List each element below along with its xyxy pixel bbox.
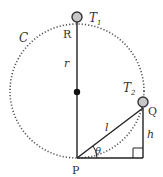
label-l: l (105, 121, 109, 134)
label-q: Q (148, 105, 157, 118)
label-c: C (19, 31, 28, 45)
label-h: h (147, 128, 154, 141)
pendulum-circle-diagram: T1 T2 C R r Q l h θ P (0, 0, 163, 177)
label-t1: T1 (89, 11, 101, 27)
label-p: P (72, 164, 80, 177)
label-t2: T2 (123, 81, 136, 97)
center-dot (74, 89, 80, 95)
label-radius: r (64, 57, 70, 70)
right-angle-mark (133, 148, 143, 158)
ball-t2 (138, 97, 148, 107)
label-r-point: R (63, 28, 72, 41)
label-theta: θ (95, 145, 101, 156)
ball-t1 (72, 12, 82, 22)
